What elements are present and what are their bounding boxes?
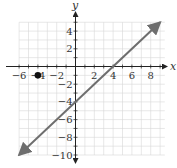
y-tick-label: −2 bbox=[58, 79, 73, 90]
y-tick-label: −10 bbox=[51, 150, 72, 161]
y-tick-label: −8 bbox=[58, 132, 73, 143]
plotted-line bbox=[19, 22, 160, 155]
x-tick-label: 8 bbox=[148, 70, 154, 81]
plotted-points bbox=[35, 72, 42, 79]
plotted-point bbox=[35, 72, 42, 79]
coordinate-plane: −6−4−2246842−2−4−6−8−10 x y bbox=[0, 0, 177, 168]
x-tick-label: −6 bbox=[12, 70, 27, 81]
y-tick-label: 4 bbox=[66, 26, 72, 37]
x-tick-label: 4 bbox=[110, 70, 116, 81]
y-axis-label: y bbox=[71, 0, 79, 12]
x-tick-label: 2 bbox=[91, 70, 97, 81]
x-tick-label: 6 bbox=[129, 70, 135, 81]
axes bbox=[6, 12, 167, 163]
y-tick-label: 2 bbox=[66, 43, 72, 54]
x-axis-label: x bbox=[170, 60, 177, 73]
line-y-equals-x-minus-4 bbox=[19, 22, 160, 155]
